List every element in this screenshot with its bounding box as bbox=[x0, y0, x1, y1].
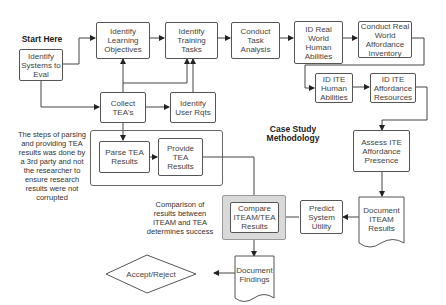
node-identify-systems[interactable]: Identify Systems to Eval bbox=[19, 49, 63, 81]
node-predict-system-utility[interactable]: Predict System Utility bbox=[300, 200, 343, 234]
node-provide-tea-results[interactable]: Provide TEA Results bbox=[158, 138, 203, 176]
node-conduct-task-analysis[interactable]: Conduct Task Analysis bbox=[231, 22, 280, 59]
start-here-label: Start Here bbox=[20, 35, 64, 44]
node-document-findings[interactable]: Document Findings bbox=[235, 258, 274, 292]
third-party-note: The steps of parsing and providing TEA r… bbox=[18, 130, 86, 202]
node-identify-user-rqts[interactable]: Identify User Rqts bbox=[170, 92, 216, 123]
node-parse-tea-results[interactable]: Parse TEA Results bbox=[99, 141, 150, 173]
arrow-systems-to-collect bbox=[41, 81, 99, 107]
node-id-ite-human-abilities[interactable]: ID ITE Human Abilities bbox=[315, 73, 353, 103]
node-identify-learning-objectives[interactable]: Identify Learning Objectives bbox=[96, 22, 150, 59]
diagram-title: Case Study Methodology bbox=[258, 125, 328, 143]
node-document-iteam-results[interactable]: Document ITEAM Results bbox=[359, 199, 404, 239]
node-id-real-world-human-abilities[interactable]: ID Real World Human Abilities bbox=[294, 21, 343, 64]
node-id-ite-affordance-resources[interactable]: ID ITE Affordance Resources bbox=[370, 73, 416, 103]
arrow-collect-to-training bbox=[123, 59, 187, 83]
node-collect-teas[interactable]: Collect TEA's bbox=[100, 92, 146, 123]
node-compare-iteam-tea-results[interactable]: Compare ITEAM/TEA Results bbox=[230, 202, 279, 233]
node-accept-reject[interactable]: Accept/Reject bbox=[120, 264, 182, 284]
comparison-note: Comparison of results between ITEAM and … bbox=[146, 200, 214, 236]
node-identify-training-tasks[interactable]: Identify Training Tasks bbox=[165, 22, 218, 59]
node-conduct-real-world-affordance-inventory[interactable]: Conduct Real World Affordance Inventory bbox=[358, 21, 412, 58]
arrow-systems-to-objectives bbox=[62, 38, 95, 64]
node-assess-ite-affordance-presence[interactable]: Assess ITE Affordance Presence bbox=[353, 130, 410, 172]
